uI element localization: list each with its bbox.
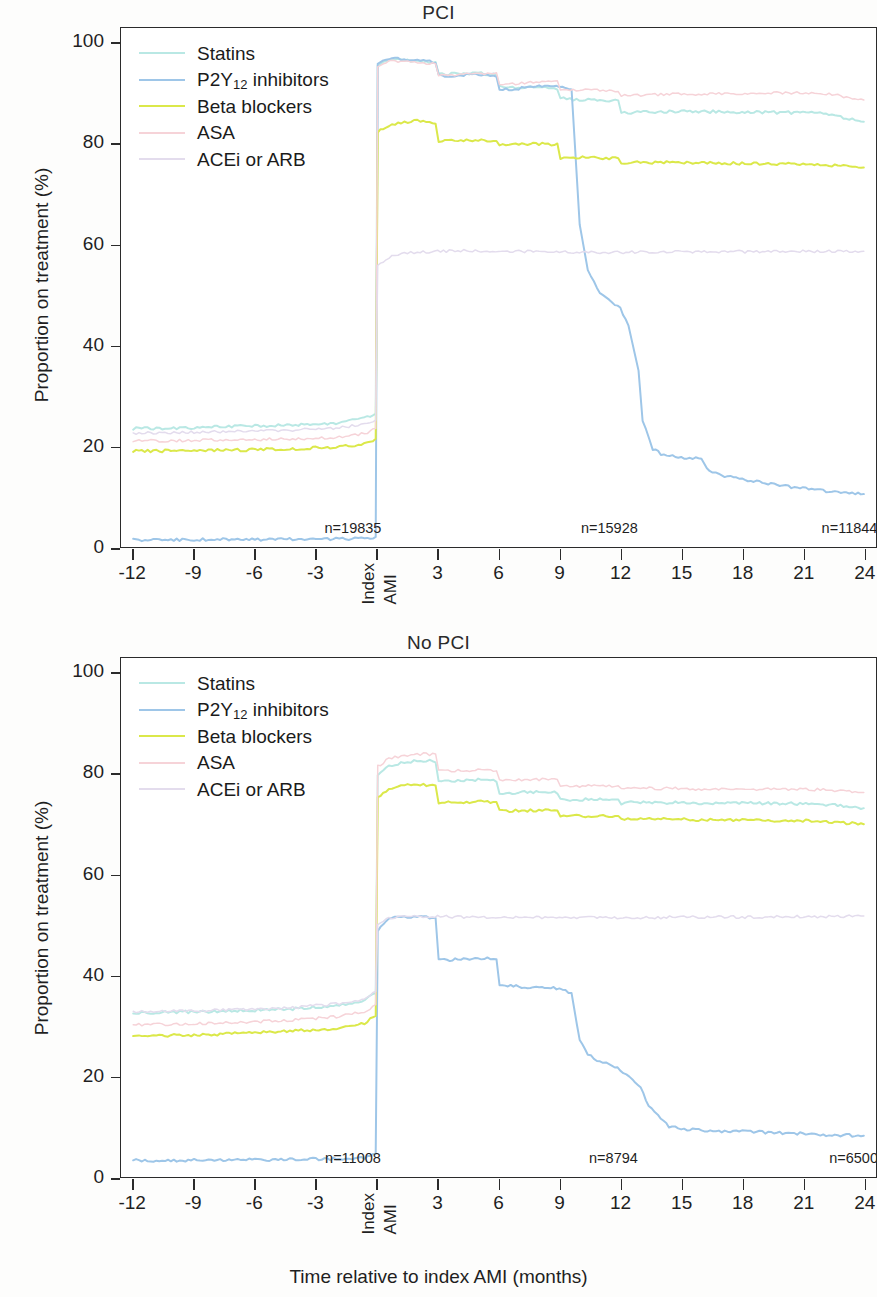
series-line-acei-or-arb: [133, 915, 864, 1013]
x-tick-mark: [437, 549, 439, 560]
y-tick: 20: [0, 447, 120, 448]
legend-swatch-icon: [139, 735, 185, 737]
series-line-acei-or-arb: [133, 250, 864, 435]
x-tick-label: -6: [246, 562, 263, 584]
x-tick-label: -6: [246, 1192, 263, 1214]
y-tick-label: 100: [34, 30, 104, 52]
y-tick-mark: [111, 42, 120, 44]
y-tick-mark: [111, 773, 120, 775]
legend-label: ACEi or ARB: [197, 150, 306, 169]
legend-item-acei-or-arb: ACEi or ARB: [139, 146, 329, 173]
legend-item-asa: ASA: [139, 750, 329, 777]
x-tick-label: 18: [732, 562, 753, 584]
x-tick-label-index-ami: IndexAMI: [360, 563, 400, 605]
y-tick-mark: [111, 143, 120, 145]
panel-title-no-pci: No PCI: [0, 632, 877, 654]
legend-swatch-icon: [139, 132, 185, 134]
panel-title-pci: PCI: [0, 2, 877, 24]
x-tick-mark: [376, 549, 378, 560]
figure-container: PCI Proportion on treatment (%) StatinsP…: [0, 0, 877, 1297]
legend-swatch-icon: [139, 105, 185, 107]
x-tick-mark: [682, 1179, 684, 1190]
x-axis-title: Time relative to index AMI (months): [0, 1266, 877, 1288]
y-tick-mark: [111, 548, 120, 550]
y-tick: 80: [0, 773, 120, 774]
y-tick: 0: [0, 1178, 120, 1179]
series-line-beta-blockers: [133, 784, 864, 1037]
y-tick-mark: [111, 1077, 120, 1079]
x-tick-label-ami: AMI: [382, 1193, 402, 1235]
x-tick-label: 18: [732, 1192, 753, 1214]
x-tick-label: 15: [671, 1192, 692, 1214]
y-tick-label: 80: [34, 131, 104, 153]
legend-item-p2y12-inhibitors: P2Y12 inhibitors: [139, 67, 329, 94]
plot-area-no-pci: StatinsP2Y12 inhibitorsBeta blockersASAA…: [120, 657, 877, 1178]
x-tick-label: 12: [610, 562, 631, 584]
legend-label: Beta blockers: [197, 727, 312, 746]
y-tick: 100: [0, 672, 120, 673]
x-tick-mark: [499, 549, 501, 560]
x-tick-mark: [437, 1179, 439, 1190]
x-tick-label-index-ami: IndexAMI: [360, 1193, 400, 1235]
x-tick-mark: [132, 1179, 134, 1190]
legend-label: ACEi or ARB: [197, 780, 306, 799]
y-tick-mark: [111, 672, 120, 674]
chart-panel-no-pci: No PCI Proportion on treatment (%) Stati…: [0, 628, 877, 1297]
legend-no-pci: StatinsP2Y12 inhibitorsBeta blockersASAA…: [139, 670, 329, 803]
y-tick-mark: [111, 1178, 120, 1180]
x-tick-mark: [743, 549, 745, 560]
y-tick: 40: [0, 346, 120, 347]
x-tick-mark: [560, 1179, 562, 1190]
x-tick-label: 24: [854, 562, 875, 584]
x-tick-label: 12: [610, 1192, 631, 1214]
y-tick-label: 40: [34, 334, 104, 356]
x-tick-mark: [804, 1179, 806, 1190]
legend-item-p2y12-inhibitors: P2Y12 inhibitors: [139, 697, 329, 724]
y-tick-label: 60: [34, 233, 104, 255]
y-tick-label: 20: [34, 435, 104, 457]
y-tick-mark: [111, 976, 120, 978]
y-tick: 20: [0, 1077, 120, 1078]
sample-size-annotation: n=19835: [325, 520, 382, 536]
legend-label: P2Y12 inhibitors: [197, 700, 329, 719]
y-tick-mark: [111, 346, 120, 348]
x-tick-mark: [804, 549, 806, 560]
y-tick: 100: [0, 42, 120, 43]
legend-label: Beta blockers: [197, 97, 312, 116]
legend-item-asa: ASA: [139, 120, 329, 147]
x-tick-label: -3: [307, 1192, 324, 1214]
x-tick-mark: [621, 549, 623, 560]
x-tick-label-index: Index: [360, 1193, 380, 1235]
x-tick-mark: [193, 549, 195, 560]
legend-item-beta-blockers: Beta blockers: [139, 723, 329, 750]
legend-swatch-icon: [139, 158, 185, 160]
y-tick-label: 20: [34, 1065, 104, 1087]
legend-item-acei-or-arb: ACEi or ARB: [139, 776, 329, 803]
x-tick-label: 6: [493, 562, 504, 584]
x-tick-mark: [743, 1179, 745, 1190]
sample-size-annotation: n=8794: [589, 1150, 638, 1166]
y-tick-mark: [111, 447, 120, 449]
legend-label: P2Y12 inhibitors: [197, 70, 329, 89]
x-tick-label: -9: [185, 1192, 202, 1214]
sample-size-annotation: n=11844: [822, 520, 877, 536]
x-tick-mark: [621, 1179, 623, 1190]
sample-size-annotation: n=6500: [829, 1150, 877, 1166]
x-tick-mark: [315, 1179, 317, 1190]
x-tick-mark: [560, 549, 562, 560]
sample-size-annotation: n=11008: [325, 1150, 381, 1166]
x-tick-mark: [682, 549, 684, 560]
y-tick: 40: [0, 976, 120, 977]
x-tick-mark: [865, 549, 867, 560]
y-tick: 60: [0, 875, 120, 876]
x-tick-mark: [865, 1179, 867, 1190]
x-tick-label: 3: [432, 562, 443, 584]
y-tick-label: 40: [34, 964, 104, 986]
legend-swatch-icon: [139, 682, 185, 684]
x-tick-label-index: Index: [360, 563, 380, 605]
x-tick-label: -9: [185, 562, 202, 584]
x-tick-label: 9: [554, 1192, 565, 1214]
y-tick-label: 100: [34, 660, 104, 682]
x-tick-label: 9: [554, 562, 565, 584]
legend-label: Statins: [197, 674, 255, 693]
